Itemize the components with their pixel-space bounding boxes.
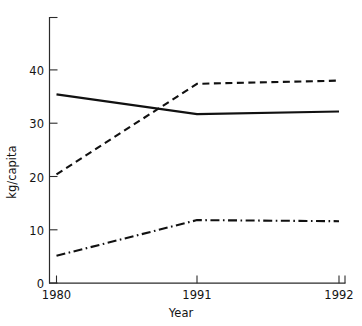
- x-tick-label-1992: 1992: [314, 288, 362, 302]
- data-series-group: [57, 81, 340, 256]
- y-tick-label-30: 30: [22, 117, 44, 131]
- y-axis-title: kg/capita: [5, 142, 19, 202]
- series-dashdot-line: [57, 220, 340, 256]
- series-solid-line: [57, 94, 340, 114]
- x-tick-label-1980: 1980: [32, 288, 82, 302]
- series-dashed-line: [57, 81, 340, 175]
- x-tick-label-1991: 1991: [172, 288, 222, 302]
- y-tick-label-40: 40: [22, 64, 44, 78]
- y-tick-label-20: 20: [22, 171, 44, 185]
- axis-spines: [49, 17, 346, 284]
- x-axis-ticks: [57, 276, 346, 284]
- plot-area: [0, 0, 362, 326]
- x-axis-title: Year: [0, 306, 362, 320]
- y-tick-label-10: 10: [22, 224, 44, 238]
- y-axis-title-wrap: kg/capita: [4, 143, 20, 203]
- line-chart: 0 10 20 30 40 1980 1991 1992 kg/capita Y…: [0, 0, 362, 326]
- y-axis-ticks: [50, 18, 58, 284]
